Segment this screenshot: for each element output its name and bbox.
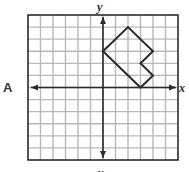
y-axis-label-bottom: y xyxy=(96,166,104,172)
coordinate-plane-figure: A y x y xyxy=(0,0,189,172)
x-axis-arrow-left-icon xyxy=(31,85,38,91)
panel-label: A xyxy=(3,80,13,95)
x-axis-arrow-right-icon xyxy=(169,85,176,91)
y-axis-arrow-down-icon xyxy=(100,151,106,158)
x-axis-label: x xyxy=(178,81,185,95)
y-axis-arrow-up-icon xyxy=(100,17,106,24)
y-axis-label-top: y xyxy=(95,0,103,14)
